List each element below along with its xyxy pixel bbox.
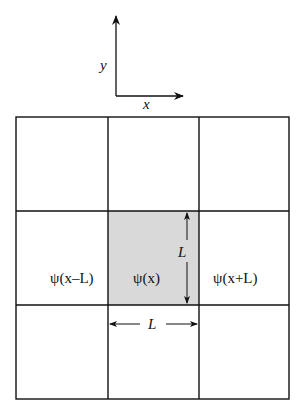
cell-label-right: ψ(x+L) [213, 270, 258, 287]
x-axis-label: x [143, 96, 150, 113]
coordinate-axes [116, 16, 183, 96]
vertical-dimension-label: L [178, 244, 186, 261]
cell-label-left: ψ(x–L) [50, 270, 94, 287]
lattice-diagram [0, 0, 305, 415]
horizontal-dimension-label: L [148, 316, 156, 333]
y-axis-label: y [100, 57, 107, 74]
cell-label-center: ψ(x) [133, 270, 160, 287]
